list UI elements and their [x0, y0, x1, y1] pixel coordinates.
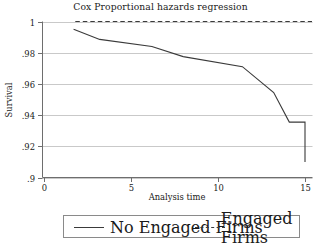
legend-entry-engaged-firms: Engaged Firms: [195, 216, 303, 239]
y-axis-title: Survival: [4, 82, 14, 117]
x-axis-tick-label: 10: [213, 183, 224, 193]
x-axis-title: Analysis time: [148, 192, 206, 202]
y-axis-tick-label: .94: [22, 111, 35, 121]
plot-area: 1.98.96.94.92.9 051015 Survival Analysis…: [0, 0, 321, 244]
chart-legend: No Engaged Firms Engaged Firms: [63, 215, 300, 238]
y-axis-tick-label: .92: [22, 142, 35, 152]
x-axis-tick-label: 15: [300, 183, 311, 193]
legend-line-dashed-icon: [195, 223, 215, 232]
series-line: [74, 29, 305, 162]
y-axis-tick-label: .96: [22, 80, 35, 90]
gridlines: [43, 23, 313, 179]
legend-label-engaged-firms: Engaged Firms: [221, 209, 303, 244]
cox-survival-chart: Cox Proportional hazards regression 1.98…: [0, 0, 321, 244]
y-axis-tick-label: .98: [22, 49, 35, 59]
legend-line-solid-icon: [74, 223, 104, 232]
y-axis-tick-label: .9: [27, 174, 35, 184]
y-axis-ticks: [38, 23, 43, 179]
x-axis-tick-label: 0: [42, 183, 47, 193]
y-axis-tick-label: 1: [30, 18, 35, 28]
series-lines: [74, 22, 312, 162]
y-axis-tick-labels: 1.98.96.94.92.9: [22, 18, 35, 184]
x-axis-tick-label: 5: [129, 183, 134, 193]
